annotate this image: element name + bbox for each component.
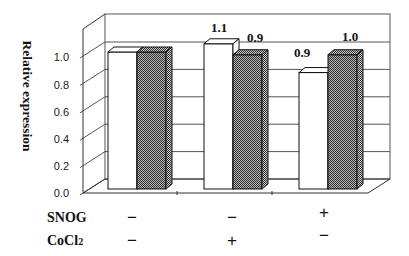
condition-sign: −: [227, 208, 237, 227]
bar-chart: Relative expression 0.0 0.2 0.4 0.6 0.8 …: [0, 0, 409, 256]
condition-label: SNOG: [47, 210, 87, 225]
bar-side-face: [166, 47, 172, 189]
y-tick-mark: [80, 124, 105, 140]
bar-front-face: [137, 52, 166, 189]
y-tick-mark: [80, 69, 105, 85]
bar-hatched: [137, 47, 172, 189]
bar-front-face: [204, 44, 233, 189]
y-tick-label: 0.8: [54, 79, 69, 91]
bar-groups: [108, 39, 363, 189]
condition-label-subscript: 2: [78, 236, 83, 247]
y-tick-label: 0.6: [54, 106, 69, 118]
y-tick-label: 1.0: [54, 51, 69, 63]
data-label: 1.0: [342, 29, 358, 44]
bar-group: [299, 50, 363, 189]
condition-sign: −: [127, 231, 137, 250]
condition-sign: +: [319, 203, 329, 222]
bar-front-face: [233, 55, 262, 189]
condition-row-cocl2: CoCl2 − + −: [47, 226, 329, 250]
bar-group: [108, 47, 172, 189]
y-tick-labels: 0.0 0.2 0.4 0.6 0.8 1.0: [54, 51, 69, 199]
condition-sign: −: [127, 208, 137, 227]
data-label: 1.1: [211, 20, 227, 35]
y-tick-label: 0.0: [54, 187, 69, 199]
bar-hatched: [328, 50, 363, 189]
bar-front-face: [299, 73, 328, 189]
bar-front-face: [108, 52, 137, 189]
y-tick-label: 0.4: [54, 133, 69, 145]
condition-sign: −: [319, 226, 329, 245]
bar-front-face: [328, 55, 357, 189]
y-tick-label: 0.2: [54, 160, 69, 172]
condition-label: CoCl2: [47, 233, 83, 248]
condition-row-snog: SNOG − − +: [47, 203, 329, 227]
data-label: 0.9: [294, 45, 311, 60]
y-axis-title: Relative expression: [20, 40, 35, 152]
y-tick-mark: [80, 97, 105, 113]
y-tick-mark: [80, 42, 105, 58]
condition-label-base: CoCl: [47, 233, 78, 248]
condition-sign: +: [227, 231, 237, 250]
condition-table: SNOG − − + CoCl2 − + −: [47, 203, 329, 250]
y-tick-mark: [80, 152, 105, 168]
bar-side-face: [262, 50, 268, 189]
left-wall-top-edge: [83, 14, 105, 29]
bar-group: [204, 39, 268, 189]
data-label: 0.9: [247, 30, 264, 45]
bar-hatched: [233, 50, 268, 189]
bar-side-face: [357, 50, 363, 189]
